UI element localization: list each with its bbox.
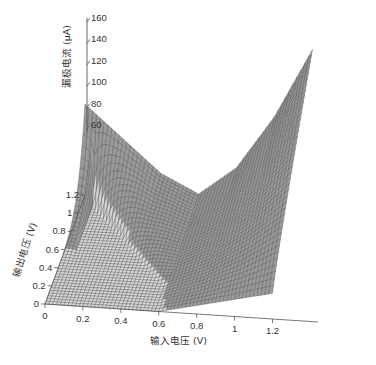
- z-axis-title: 漏极电流 (μA): [61, 25, 72, 88]
- mesh-cell: [150, 236, 155, 240]
- mesh-cell: [79, 168, 84, 179]
- mesh-cell: [118, 164, 123, 171]
- z-tick-label: 160: [91, 12, 107, 23]
- z-tick-label: 140: [91, 33, 107, 44]
- mesh-cell: [139, 218, 144, 223]
- z-tick-label: 80: [91, 98, 102, 109]
- mesh-cell: [136, 213, 141, 218]
- mesh-cell: [158, 252, 163, 256]
- mesh-cell: [131, 202, 136, 207]
- mesh-cell: [80, 158, 85, 170]
- surface-plot: 6080100120140160 00.20.40.60.811.2 00.20…: [0, 0, 376, 365]
- x-tick-label: 0.2: [76, 313, 89, 324]
- mesh-cell: [134, 208, 139, 213]
- mesh-cell: [149, 228, 154, 232]
- mesh-cell: [159, 248, 164, 252]
- x-tick-label: 0.8: [190, 320, 203, 331]
- mesh-cell: [74, 206, 79, 212]
- x-tick-label: 0.4: [114, 315, 127, 326]
- mesh-cell: [132, 197, 137, 203]
- mesh-cell: [78, 177, 83, 187]
- y-tick-label: 1: [67, 207, 72, 218]
- y-axis-title: 输出电压 (V): [10, 221, 38, 279]
- z-tick-label: 60: [91, 119, 102, 130]
- y-tick-label: 0: [34, 298, 39, 309]
- surface-mesh: [45, 50, 312, 312]
- mesh-cell: [161, 255, 166, 259]
- x-tick-label: 0.6: [152, 318, 165, 329]
- x-tick-label: 0: [42, 310, 47, 321]
- mesh-cell: [123, 179, 128, 186]
- mesh-cell: [129, 191, 134, 197]
- mesh-cell: [106, 135, 111, 146]
- mesh-cell: [165, 266, 170, 270]
- mesh-cell: [121, 172, 126, 179]
- y-tick-label: 0.4: [39, 262, 52, 273]
- z-tick-label: 120: [91, 55, 107, 66]
- mesh-cell: [126, 185, 131, 191]
- mesh-cell: [75, 200, 80, 207]
- mesh-cell: [115, 156, 120, 164]
- x-tick-label: 1: [232, 323, 237, 334]
- mesh-cell: [151, 232, 156, 236]
- x-tick-label: 1.2: [266, 325, 279, 336]
- z-tick-label: 100: [91, 76, 107, 87]
- mesh-cell: [81, 146, 86, 159]
- mesh-cell: [82, 134, 87, 149]
- mesh-cell: [156, 244, 161, 248]
- mesh-cell: [141, 227, 146, 232]
- mesh-cell: [162, 262, 167, 266]
- y-tick-label: 0.6: [46, 244, 59, 255]
- y-tick-label: 0.8: [52, 225, 65, 236]
- mesh-cell: [163, 259, 168, 263]
- x-axis-title: 输入电压 (V): [150, 335, 207, 346]
- y-tick-label: 1.2: [66, 189, 79, 200]
- mesh-cell: [153, 240, 158, 244]
- y-tick-label: 0.2: [32, 280, 45, 291]
